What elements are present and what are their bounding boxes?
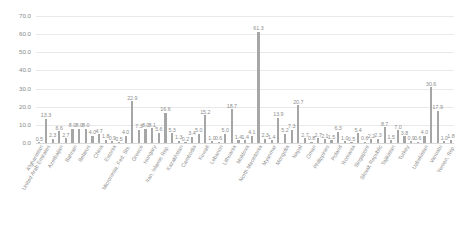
bar: 1.0 bbox=[211, 141, 213, 143]
bar-slot: 0.6 bbox=[415, 16, 422, 143]
x-label-slot: Yemen, Rep. bbox=[448, 144, 455, 233]
bar-slot: 1.0 bbox=[441, 16, 448, 143]
bar-slot: 0.5 bbox=[348, 16, 355, 143]
bar-slot: 1.8 bbox=[448, 16, 455, 143]
x-label-slot: United Arab Emirates bbox=[43, 144, 50, 233]
x-label-slot: Kazakhstan bbox=[175, 144, 182, 233]
bar: 8.0 bbox=[78, 129, 80, 144]
x-label-slot: Mongolia bbox=[282, 144, 289, 233]
bar-slot: 0.9 bbox=[109, 16, 116, 143]
x-label-slot: Kuwait bbox=[202, 144, 209, 233]
x-label-slot: North Macedonia bbox=[255, 144, 262, 233]
bar: 5.0 bbox=[224, 134, 226, 143]
y-axis-tick: 70.0 bbox=[19, 13, 31, 19]
x-label-slot: Singapore bbox=[361, 144, 368, 233]
x-label-slot: Greece bbox=[136, 144, 143, 233]
x-label-slot: Bahrain bbox=[69, 144, 76, 233]
bar: 1.5 bbox=[330, 140, 332, 143]
bar: 1.0 bbox=[443, 141, 445, 143]
bar: 5.6 bbox=[158, 133, 160, 143]
x-label-slot: Philippines bbox=[322, 144, 329, 233]
bar: 0.2 bbox=[184, 142, 186, 143]
bar: 4.0 bbox=[125, 136, 127, 143]
bar-slot: 8.7 bbox=[381, 16, 388, 143]
bar: 30.6 bbox=[430, 87, 432, 143]
bar-slot: 4.1 bbox=[249, 16, 256, 143]
bar: 15.2 bbox=[204, 115, 206, 143]
bar-slot: 17.9 bbox=[434, 16, 441, 143]
bar: 7.3 bbox=[138, 130, 140, 143]
x-label-slot: Slovak Republic bbox=[375, 144, 382, 233]
bar: 13.9 bbox=[277, 118, 279, 143]
x-label-slot: Belarus bbox=[82, 144, 89, 233]
bar-slot: 0.8 bbox=[308, 16, 315, 143]
x-label-slot: Estonia bbox=[109, 144, 116, 233]
bar-slot: 1.0 bbox=[341, 16, 348, 143]
bar: 2.7 bbox=[304, 138, 306, 143]
x-label-slot: Micronesia, Fed. Sts. bbox=[122, 144, 129, 233]
bar-slot: 1.4 bbox=[242, 16, 249, 143]
bar-slot: 5.3 bbox=[169, 16, 176, 143]
bar-slot: 2.7 bbox=[315, 16, 322, 143]
x-label-slot: Myanmar bbox=[268, 144, 275, 233]
x-label-slot: Nepal bbox=[295, 144, 302, 233]
bar: 4.0 bbox=[423, 136, 425, 143]
bar: 1.8 bbox=[105, 140, 107, 143]
bar-slot: 13.9 bbox=[275, 16, 282, 143]
bar-slot: 0.2 bbox=[182, 16, 189, 143]
bar-slot: 5.0 bbox=[222, 16, 229, 143]
bar: 18.7 bbox=[231, 109, 233, 143]
bar: 1.8 bbox=[450, 140, 452, 143]
x-label-slot: Oman bbox=[308, 144, 315, 233]
y-axis-tick: 30.0 bbox=[19, 86, 31, 92]
bar-value-label: 1.8 bbox=[447, 133, 454, 139]
bar-slot: 1.5 bbox=[328, 16, 335, 143]
bar: 8.0 bbox=[71, 129, 73, 144]
bar-slot: 2.2 bbox=[368, 16, 375, 143]
bar: 20.7 bbox=[297, 105, 299, 143]
bar: 5.0 bbox=[198, 134, 200, 143]
bar: 8.0 bbox=[144, 129, 146, 144]
bar: 7.0 bbox=[397, 130, 399, 143]
bar-slot: 1.8 bbox=[102, 16, 109, 143]
bar: 6.6 bbox=[58, 131, 60, 143]
bar: 2.2 bbox=[370, 139, 372, 143]
bar-slot: 5.0 bbox=[195, 16, 202, 143]
bar: 61.3 bbox=[257, 32, 259, 143]
bar-slot: 20.7 bbox=[295, 16, 302, 143]
x-label-slot: Uzbekistan bbox=[421, 144, 428, 233]
bar: 2.3 bbox=[52, 139, 54, 143]
bar: 1.3 bbox=[178, 141, 180, 143]
y-axis-tick: 40.0 bbox=[19, 67, 31, 73]
bar-slot: 0.5 bbox=[116, 16, 123, 143]
x-label-slot: Romania bbox=[348, 144, 355, 233]
bar-slot: 3.4 bbox=[189, 16, 196, 143]
bar: 3.8 bbox=[403, 136, 405, 143]
bar-slot: 18.7 bbox=[229, 16, 236, 143]
bar-slot: 4.0 bbox=[89, 16, 96, 143]
y-axis-tick: 60.0 bbox=[19, 31, 31, 37]
x-label-slot: Iran, Islamic Rep. bbox=[162, 144, 169, 233]
x-label-slot bbox=[408, 144, 415, 233]
bar-slot: 1.0 bbox=[209, 16, 216, 143]
y-axis-tick: 20.0 bbox=[19, 104, 31, 110]
bar-slot: 1.3 bbox=[175, 16, 182, 143]
bar: 17.9 bbox=[437, 111, 439, 143]
bar-slot: 61.3 bbox=[255, 16, 262, 143]
bar: 1.0 bbox=[344, 141, 346, 143]
bar: 4.0 bbox=[91, 136, 93, 143]
x-label-slot: Vanuatu bbox=[434, 144, 441, 233]
bar-slot: 2.7 bbox=[302, 16, 309, 143]
bar-slot: 3.8 bbox=[401, 16, 408, 143]
bar-slot: 1.4 bbox=[235, 16, 242, 143]
bar: 1.4 bbox=[244, 140, 246, 143]
x-axis-labels: AfghanistanUnited Arab EmiratesAzerbaija… bbox=[36, 144, 454, 233]
x-label-slot: Hungary bbox=[149, 144, 156, 233]
bar: 8.7 bbox=[384, 127, 386, 143]
bar: 1.4 bbox=[271, 140, 273, 143]
bar-slot: 16.6 bbox=[162, 16, 169, 143]
bar-slot: 0.6 bbox=[361, 16, 368, 143]
bar-slot: 0.9 bbox=[408, 16, 415, 143]
bar: 7.3 bbox=[291, 130, 293, 143]
bar: 1.5 bbox=[390, 140, 392, 143]
